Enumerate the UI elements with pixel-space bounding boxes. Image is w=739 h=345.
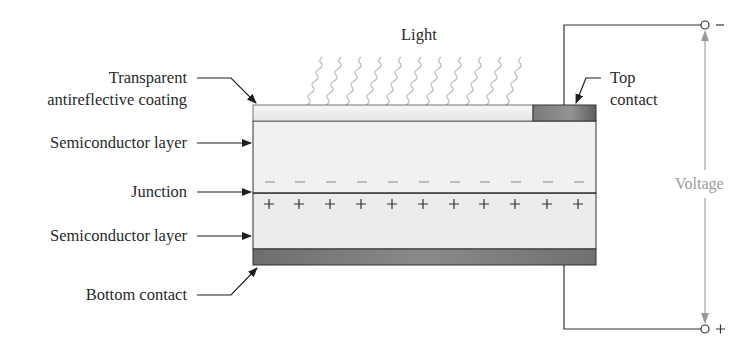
bottom-semiconductor-layer — [253, 193, 596, 249]
top-semiconductor-label: Semiconductor layer — [50, 133, 187, 152]
solar-cell — [253, 105, 596, 265]
top-contact-label-line1: Top — [610, 68, 635, 87]
coating-leader — [197, 78, 256, 103]
top-contact-label-line2: contact — [610, 90, 658, 109]
antireflective-coating — [253, 105, 533, 121]
light-label: Light — [401, 25, 437, 44]
coating-label-line2: antireflective coating — [47, 90, 187, 109]
plus-sign-icon — [716, 325, 725, 334]
top-contact-leader — [576, 78, 601, 103]
bottom-semiconductor-label: Semiconductor layer — [50, 226, 187, 245]
positive-terminal-icon — [701, 325, 709, 333]
coating-label-line1: Transparent — [109, 68, 187, 87]
bottom-wire — [564, 265, 701, 329]
top-contact — [533, 105, 596, 121]
junction-label: Junction — [131, 182, 187, 201]
bottom-contact — [253, 249, 596, 265]
bottom-contact-label: Bottom contact — [86, 285, 187, 304]
voltage-label: Voltage — [675, 174, 724, 193]
bottom-contact-leader — [197, 268, 257, 295]
negative-terminal-icon — [701, 21, 709, 29]
